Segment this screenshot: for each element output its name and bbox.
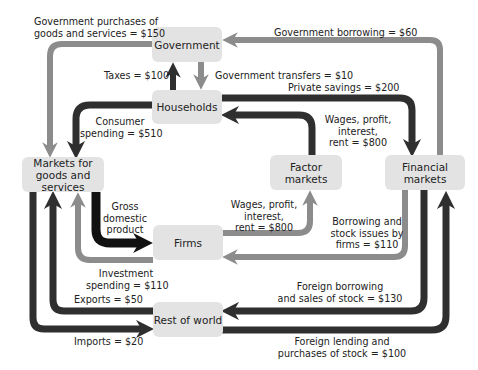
label-line: Government purchases of — [34, 16, 154, 28]
label-line: purchases of stock = $100 — [272, 348, 412, 360]
label-line: goods and services = $150 — [34, 28, 154, 40]
label-wages-to-factor: Wages, profit, interest, rent = $800 — [228, 199, 300, 234]
label-consumer-spending: Consumer spending = $510 — [80, 116, 160, 139]
label-gdp: Gross domestic product — [100, 201, 150, 236]
label-private-savings: Private savings = $200 — [288, 82, 399, 94]
label-foreign-borrowing: Foreign borrowing and sales of stock = $… — [270, 281, 410, 304]
label-line: product — [100, 224, 150, 236]
node-households: Households — [152, 90, 222, 124]
label-line: rent = $800 — [228, 222, 300, 234]
label-investment-spending: Investment spending = $110 — [86, 268, 166, 291]
label-taxes: Taxes = $100 — [104, 70, 169, 82]
label-exports: Exports = $50 — [74, 294, 143, 306]
label-line: Wages, profit, — [318, 114, 398, 126]
label-imports: Imports = $20 — [74, 336, 143, 348]
label-government-borrowing: Government borrowing = $60 — [274, 27, 417, 39]
label-wages-to-households: Wages, profit, interest, rent = $800 — [318, 114, 398, 149]
label-foreign-lending: Foreign lending and purchases of stock =… — [272, 336, 412, 359]
node-financial-markets: Financial markets — [385, 155, 465, 190]
label-line: stock issues by — [330, 228, 404, 240]
label-line: spending = $110 — [86, 280, 166, 292]
label-line: and sales of stock = $130 — [270, 293, 410, 305]
node-factor-markets: Factor markets — [270, 155, 342, 190]
label-line: Borrowing and — [330, 216, 404, 228]
label-government-transfers: Government transfers = $10 — [215, 70, 353, 82]
node-rest-of-world: Rest of world — [153, 302, 223, 337]
label-line: spending = $510 — [80, 128, 160, 140]
arrow-wages-to-households — [230, 115, 312, 155]
label-line: interest, — [228, 211, 300, 223]
node-firms: Firms — [153, 225, 223, 260]
label-line: Foreign lending and — [272, 336, 412, 348]
label-borrowing-firms: Borrowing and stock issues by firms = $1… — [330, 216, 404, 251]
node-markets-goods-services: Markets for goods and services — [22, 157, 104, 192]
label-line: interest, — [318, 126, 398, 138]
label-line: Gross — [100, 201, 150, 213]
label-line: domestic — [100, 213, 150, 225]
label-line: Wages, profit, — [228, 199, 300, 211]
label-line: Consumer — [80, 116, 160, 128]
label-line: Investment — [86, 268, 166, 280]
label-line: Foreign borrowing — [270, 281, 410, 293]
label-government-purchases: Government purchases of goods and servic… — [34, 16, 154, 39]
label-line: rent = $800 — [318, 137, 398, 149]
label-line: firms = $110 — [330, 239, 404, 251]
